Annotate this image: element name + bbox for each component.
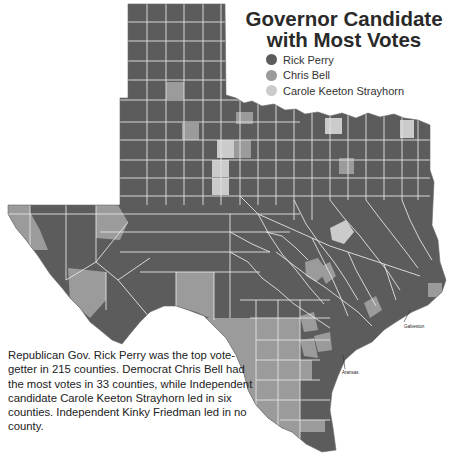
legend-label-perry: Rick Perry (283, 54, 334, 66)
county-castro (166, 82, 184, 99)
callout-label-galveston: Galveston (404, 324, 425, 329)
county-fisher (212, 160, 229, 177)
legend-label-strayhorn: Carole Keeton Strayhorn (283, 85, 404, 97)
county-crosby (182, 123, 199, 140)
legend-swatch-perry-icon (266, 54, 277, 65)
legend: Rick Perry Chris Bell Carole Keeton Stra… (266, 52, 404, 99)
map-title: Governor Candidate with Most Votes (244, 8, 444, 50)
county-stonewall (217, 140, 234, 158)
title-line-2: with Most Votes (244, 29, 444, 50)
title-line-1: Governor Candidate (244, 8, 444, 29)
county-jefferson (428, 283, 442, 297)
county-willacy (300, 420, 325, 432)
legend-label-bell: Chris Bell (283, 69, 330, 81)
legend-item-strayhorn: Carole Keeton Strayhorn (266, 83, 404, 99)
county-nolan (212, 178, 229, 195)
legend-swatch-strayhorn-icon (266, 85, 277, 96)
legend-swatch-bell-icon (266, 70, 277, 81)
legend-item-bell: Chris Bell (266, 68, 404, 84)
county-haskell (234, 140, 251, 158)
map-caption: Republican Gov. Rick Perry was the top v… (8, 348, 258, 434)
callout-label-aransas: Aransas (342, 370, 359, 375)
county-jim-wells (300, 360, 312, 380)
county-cooke (325, 118, 342, 134)
legend-item-perry: Rick Perry (266, 52, 404, 68)
